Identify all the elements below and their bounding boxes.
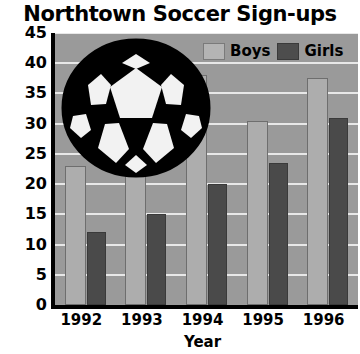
bar-boys-1993	[125, 148, 146, 305]
y-axis-tick-label: 15	[3, 206, 47, 222]
bar-boys-1996	[307, 78, 328, 305]
chart-legend: Boys Girls	[203, 42, 343, 60]
chart-container: Northtown Soccer Sign-ups Boys Girls 051…	[0, 0, 360, 354]
bars-layer	[55, 33, 358, 305]
bar-boys-1994	[186, 75, 207, 305]
bar-boys-1992	[65, 166, 86, 305]
x-axis-tick-label: 1992	[51, 311, 111, 329]
bar-boys-1995	[247, 121, 268, 305]
bar-girls-1992	[87, 232, 106, 305]
y-axis-tick-labels: 051015202530354045	[0, 0, 47, 354]
legend-entry-girls: Girls	[277, 42, 343, 60]
x-axis-tick-label: 1994	[173, 311, 233, 329]
chart-title: Northtown Soccer Sign-ups	[0, 2, 360, 26]
y-axis-tick-label: 40	[3, 55, 47, 71]
y-axis-tick-label: 25	[3, 146, 47, 162]
x-axis-title: Year	[51, 333, 354, 351]
legend-label-girls: Girls	[304, 42, 343, 60]
legend-swatch-boys-icon	[203, 43, 225, 60]
y-axis-tick-label: 35	[3, 85, 47, 101]
bar-girls-1993	[147, 214, 166, 305]
legend-entry-boys: Boys	[203, 42, 270, 60]
legend-swatch-girls-icon	[277, 43, 299, 60]
bar-girls-1994	[208, 184, 227, 305]
y-axis-tick-label: 30	[3, 116, 47, 132]
bar-girls-1995	[269, 163, 288, 305]
y-axis-tick-label: 45	[3, 25, 47, 41]
x-axis-tick-label: 1993	[112, 311, 172, 329]
bar-girls-1996	[329, 118, 348, 305]
y-axis-tick-label: 5	[3, 267, 47, 283]
legend-label-boys: Boys	[230, 42, 270, 60]
x-axis-tick-label: 1995	[233, 311, 293, 329]
y-axis-tick-label: 0	[3, 297, 47, 313]
y-axis-tick-label: 10	[3, 237, 47, 253]
x-axis-tick-label: 1996	[294, 311, 354, 329]
y-axis-tick-label: 20	[3, 176, 47, 192]
plot-area	[51, 33, 358, 309]
